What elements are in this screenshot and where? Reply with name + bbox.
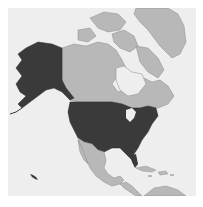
puerto-rico (170, 174, 174, 176)
north-america-map (8, 8, 196, 196)
jamaica (148, 175, 152, 177)
map-frame (8, 8, 196, 196)
